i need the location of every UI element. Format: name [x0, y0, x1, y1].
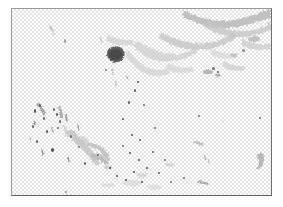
artwork-canvas[interactable]	[11, 8, 272, 196]
app-root	[0, 0, 283, 207]
center-splatter-burst	[62, 125, 174, 178]
right-side-marks	[193, 119, 223, 185]
bottom-wash	[101, 180, 162, 189]
top-right-brush-sweep	[124, 9, 271, 76]
grunge-texture-svg	[12, 9, 271, 195]
speck	[177, 195, 179, 196]
grunge-texture-layer	[12, 9, 271, 195]
dark-blob	[107, 46, 125, 62]
